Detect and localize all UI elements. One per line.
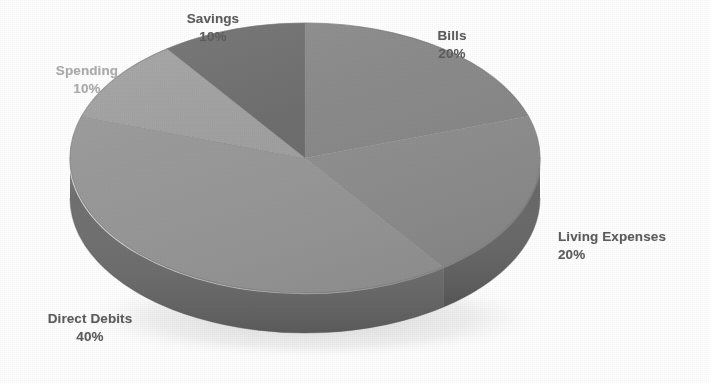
slice-label-direct-debits-value: 40% [20,328,160,346]
slice-label-bills: Bills 20% [392,27,512,63]
slice-label-savings-name: Savings [153,10,273,28]
slice-label-spending-value: 10% [22,80,152,98]
slice-label-living-expenses: Living Expenses 20% [558,228,708,264]
pie-chart-figure: Savings 10% Bills 20% Spending 10% Livin… [0,0,710,383]
slice-label-savings-value: 10% [153,28,273,46]
slice-label-spending-name: Spending [22,62,152,80]
slice-label-direct-debits: Direct Debits 40% [20,310,160,346]
slice-label-savings: Savings 10% [153,10,273,46]
slice-label-bills-name: Bills [392,27,512,45]
slice-label-spending: Spending 10% [22,62,152,98]
slice-label-direct-debits-name: Direct Debits [20,310,160,328]
slice-label-bills-value: 20% [392,45,512,63]
slice-label-living-expenses-value: 20% [558,246,708,264]
slice-label-living-expenses-name: Living Expenses [558,228,708,246]
